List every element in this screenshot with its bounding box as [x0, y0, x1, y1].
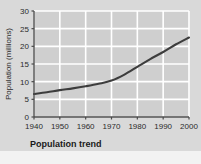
x-tick-label: 1970	[103, 122, 121, 131]
bottom-strip	[0, 151, 201, 164]
x-tick-label: 1980	[128, 122, 146, 131]
y-tick-label: 15	[20, 60, 29, 69]
x-tick-label: 1960	[77, 122, 95, 131]
x-tick-label: 1990	[154, 122, 172, 131]
y-tick-label: 0	[25, 113, 30, 122]
y-tick-label: 30	[20, 7, 29, 16]
y-tick-label: 5	[25, 95, 30, 104]
x-tick-label: 2000	[180, 122, 198, 131]
y-axis-title: Population (millions)	[4, 28, 13, 100]
x-tick-label: 1950	[51, 122, 69, 131]
y-tick-label: 20	[20, 42, 29, 51]
x-tick-label: 1940	[25, 122, 43, 131]
chart-figure: 051015202530 194019501960197019801990200…	[0, 0, 201, 164]
population-trend-line-chart: 051015202530 194019501960197019801990200…	[0, 0, 201, 164]
y-tick-label: 25	[20, 25, 29, 34]
y-tick-label: 10	[20, 78, 29, 87]
